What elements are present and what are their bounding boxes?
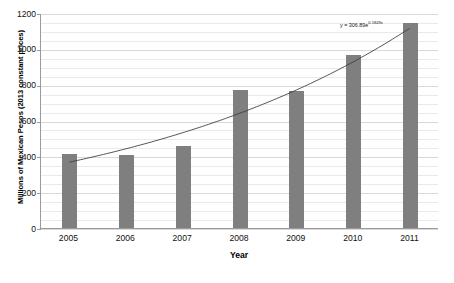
y-axis-tick-mark bbox=[37, 229, 41, 230]
x-axis-tick-label: 2009 bbox=[274, 233, 318, 243]
gridline-minor bbox=[41, 41, 438, 42]
y-axis-tick-label: 1200 bbox=[2, 10, 36, 19]
y-axis-tick-label: 800 bbox=[2, 81, 36, 90]
y-axis-tick-mark bbox=[37, 86, 41, 87]
y-axis-tick-mark bbox=[37, 157, 41, 158]
bar bbox=[403, 23, 418, 228]
y-axis-tick-label: 200 bbox=[2, 189, 36, 198]
y-axis-tick-label: 1000 bbox=[2, 45, 36, 54]
bar bbox=[119, 155, 134, 228]
x-axis-tick-label: 2010 bbox=[331, 233, 375, 243]
bar bbox=[346, 55, 361, 228]
y-axis-tick-mark bbox=[37, 193, 41, 194]
trendline-equation-exponent: 0.1849x bbox=[368, 20, 383, 25]
x-axis-tick-label: 2008 bbox=[217, 233, 261, 243]
y-axis-tick-label: 600 bbox=[2, 117, 36, 126]
y-axis-tick-labels: 020040060080010001200 bbox=[0, 0, 36, 283]
gridline-major bbox=[41, 86, 438, 87]
x-axis-tick-label: 2006 bbox=[103, 233, 147, 243]
bar bbox=[289, 91, 304, 228]
x-axis-title: Year bbox=[40, 250, 438, 261]
x-axis-tick-label: 2007 bbox=[160, 233, 204, 243]
gridline-minor bbox=[41, 77, 438, 78]
gridline-minor bbox=[41, 59, 438, 60]
x-axis-tick-labels: 2005200620072008200920102011 bbox=[40, 233, 438, 247]
gridline-minor bbox=[41, 32, 438, 33]
gridline-minor bbox=[41, 68, 438, 69]
gridline-major bbox=[41, 14, 438, 15]
y-axis-tick-mark bbox=[37, 50, 41, 51]
bar bbox=[176, 146, 191, 228]
x-axis-tick-label: 2005 bbox=[46, 233, 90, 243]
y-axis-tick-label: 0 bbox=[2, 225, 36, 234]
y-axis-tick-mark bbox=[37, 122, 41, 123]
plot-area bbox=[40, 14, 438, 229]
trendline-equation-base: y = 306.89e bbox=[340, 22, 368, 28]
plot-inner bbox=[41, 14, 438, 228]
gridline-major bbox=[41, 50, 438, 51]
bar-chart: Millions of Mexican Pesos (2013 constant… bbox=[0, 0, 454, 283]
y-axis-tick-label: 400 bbox=[2, 153, 36, 162]
y-axis-tick-mark bbox=[37, 14, 41, 15]
bar bbox=[62, 154, 77, 228]
x-axis-tick-label: 2011 bbox=[388, 233, 432, 243]
gridline-major bbox=[41, 229, 438, 230]
trendline-equation-label: y = 306.89e0.1849x bbox=[340, 19, 383, 29]
bar bbox=[233, 90, 248, 228]
